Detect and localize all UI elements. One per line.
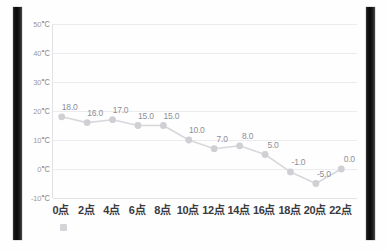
legend-swatch-icon [60,224,67,231]
data-point-marker[interactable] [84,119,91,126]
x-tick-label: 10点 [177,201,199,217]
data-point-label: 0.0 [344,154,355,164]
x-tick-label: 14点 [228,201,250,217]
data-point-marker[interactable] [236,142,243,149]
data-point-marker[interactable] [58,113,65,120]
x-tick-label: 22点 [329,201,351,217]
x-tick-label: 16点 [253,201,275,217]
data-point-marker[interactable] [160,122,167,129]
right-edge-bar [366,7,375,240]
data-point-marker[interactable] [211,145,218,152]
x-tick-label: 12点 [202,201,224,217]
temperature-line-chart: 50℃40℃30℃20℃10℃0℃-10℃ 18.016.017.015.015… [0,0,386,250]
gridline--10 [53,198,357,199]
x-tick-label: 8点 [154,201,170,217]
data-point-marker[interactable] [287,169,294,176]
data-point-marker[interactable] [338,166,345,173]
x-tick-label: 2点 [78,201,94,217]
x-tick-label: 18点 [278,201,300,217]
data-point-marker[interactable] [135,122,142,129]
data-point-label: 5.0 [267,140,278,150]
data-point-label: -5.0 [317,169,331,179]
data-point-marker[interactable] [185,137,192,144]
data-point-label: 10.0 [189,125,205,135]
x-tick-label: 6点 [129,201,145,217]
data-point-label: 8.0 [242,131,253,141]
data-point-label: 16.0 [87,108,103,118]
data-point-label: 15.0 [138,111,154,121]
data-point-label: 18.0 [62,102,78,112]
data-point-label: 15.0 [164,111,180,121]
data-point-label: 17.0 [113,105,129,115]
data-point-marker[interactable] [312,180,319,187]
left-edge-bar [13,7,22,240]
data-point-label: 7.0 [217,134,228,144]
data-point-marker[interactable] [109,116,116,123]
data-point-marker[interactable] [262,151,269,158]
x-tick-label: 0点 [53,201,69,217]
faint-header-row [32,2,367,13]
x-tick-label: 4点 [103,201,119,217]
data-point-label: -1.0 [292,157,306,167]
x-tick-label: 20点 [304,201,326,217]
